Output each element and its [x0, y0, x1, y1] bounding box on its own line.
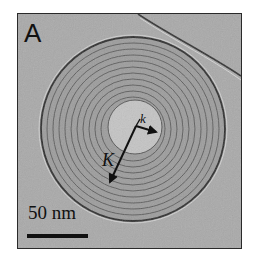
panel-label: A	[24, 20, 41, 46]
scale-bar	[27, 234, 88, 238]
arrow-label-K: K	[102, 151, 114, 169]
scale-bar-label: 50 nm	[28, 203, 76, 222]
micrograph-panel: A k K 50 nm	[17, 13, 242, 249]
arrow-label-k: k	[140, 112, 146, 125]
